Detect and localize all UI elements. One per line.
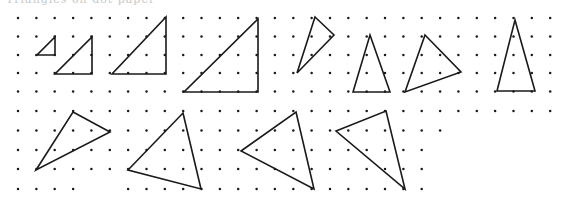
grid-dot bbox=[402, 72, 405, 75]
grid-dot bbox=[310, 110, 313, 113]
grid-dot bbox=[53, 149, 56, 152]
triangles-group bbox=[36, 17, 535, 189]
grid-dot bbox=[182, 17, 185, 20]
grid-dot bbox=[35, 35, 38, 38]
grid-dot bbox=[420, 35, 423, 38]
grid-dot bbox=[200, 17, 203, 20]
grid-dot bbox=[549, 54, 552, 57]
grid-dot bbox=[310, 168, 313, 171]
grid-dot bbox=[512, 17, 515, 20]
grid-dot bbox=[420, 17, 423, 20]
triangle-2 bbox=[55, 37, 92, 74]
grid-dot bbox=[329, 129, 332, 132]
grid-dot bbox=[402, 168, 405, 171]
grid-dot bbox=[347, 90, 350, 93]
grid-dot bbox=[384, 188, 387, 191]
grid-dot bbox=[292, 110, 295, 113]
grid-dot bbox=[365, 149, 368, 152]
grid-dot bbox=[384, 54, 387, 57]
grid-dot bbox=[549, 90, 552, 93]
grid-dot bbox=[347, 149, 350, 152]
grid-dot bbox=[109, 72, 112, 75]
grid-dot bbox=[531, 110, 534, 113]
grid-dot bbox=[53, 168, 56, 171]
triangle-11 bbox=[241, 112, 314, 189]
grid-dot bbox=[127, 17, 130, 20]
grid-dot bbox=[145, 168, 148, 171]
grid-dot bbox=[182, 72, 185, 75]
grid-dot bbox=[200, 110, 203, 113]
grid-dot bbox=[347, 188, 350, 191]
grid-dot bbox=[200, 129, 203, 132]
grid-dot bbox=[512, 72, 515, 75]
grid-dot bbox=[35, 149, 38, 152]
grid-dot bbox=[109, 90, 112, 93]
grid-dot bbox=[365, 72, 368, 75]
dot-grid bbox=[17, 17, 552, 191]
grid-dot bbox=[365, 129, 368, 132]
grid-dot bbox=[292, 17, 295, 20]
grid-dot bbox=[347, 72, 350, 75]
grid-dot bbox=[549, 35, 552, 38]
grid-dot bbox=[439, 90, 442, 93]
grid-dot bbox=[90, 110, 93, 113]
grid-dot bbox=[90, 149, 93, 152]
grid-dot bbox=[274, 188, 277, 191]
grid-dot bbox=[255, 110, 258, 113]
grid-dot bbox=[255, 188, 258, 191]
grid-dot bbox=[292, 149, 295, 152]
grid-dot bbox=[182, 35, 185, 38]
grid-dot bbox=[109, 54, 112, 57]
grid-dot bbox=[127, 110, 130, 113]
grid-dot bbox=[512, 54, 515, 57]
grid-dot bbox=[365, 17, 368, 20]
grid-dot bbox=[512, 110, 515, 113]
grid-dot bbox=[384, 149, 387, 152]
grid-dot bbox=[72, 35, 75, 38]
grid-dot bbox=[274, 35, 277, 38]
triangle-grid-diagram bbox=[0, 0, 566, 208]
grid-dot bbox=[292, 54, 295, 57]
grid-dot bbox=[365, 54, 368, 57]
grid-dot bbox=[420, 129, 423, 132]
dot-paper-figure: Triangles on dot paper bbox=[0, 0, 566, 208]
grid-dot bbox=[531, 35, 534, 38]
grid-dot bbox=[109, 168, 112, 171]
triangle-3 bbox=[112, 17, 166, 74]
grid-dot bbox=[109, 149, 112, 152]
grid-dot bbox=[145, 17, 148, 20]
grid-dot bbox=[329, 168, 332, 171]
grid-dot bbox=[494, 54, 497, 57]
grid-dot bbox=[310, 35, 313, 38]
grid-dot bbox=[17, 110, 20, 113]
grid-dot bbox=[494, 90, 497, 93]
grid-dot bbox=[274, 129, 277, 132]
grid-dot bbox=[127, 188, 130, 191]
grid-dot bbox=[549, 110, 552, 113]
grid-dot bbox=[420, 188, 423, 191]
grid-dot bbox=[549, 72, 552, 75]
grid-dot bbox=[200, 54, 203, 57]
grid-dot bbox=[72, 188, 75, 191]
grid-dot bbox=[420, 149, 423, 152]
grid-dot bbox=[72, 90, 75, 93]
grid-dot bbox=[17, 72, 20, 75]
grid-dot bbox=[237, 72, 240, 75]
grid-dot bbox=[494, 35, 497, 38]
triangle-4 bbox=[184, 19, 258, 92]
grid-dot bbox=[402, 17, 405, 20]
grid-dot bbox=[53, 17, 56, 20]
grid-dot bbox=[90, 90, 93, 93]
grid-dot bbox=[384, 17, 387, 20]
grid-dot bbox=[109, 35, 112, 38]
grid-dot bbox=[127, 149, 130, 152]
grid-dot bbox=[476, 35, 479, 38]
grid-dot bbox=[494, 110, 497, 113]
grid-dot bbox=[35, 188, 38, 191]
triangle-1 bbox=[37, 37, 55, 55]
grid-dot bbox=[255, 129, 258, 132]
grid-dot bbox=[384, 129, 387, 132]
grid-dot bbox=[439, 72, 442, 75]
grid-dot bbox=[53, 129, 56, 132]
grid-dot bbox=[274, 149, 277, 152]
